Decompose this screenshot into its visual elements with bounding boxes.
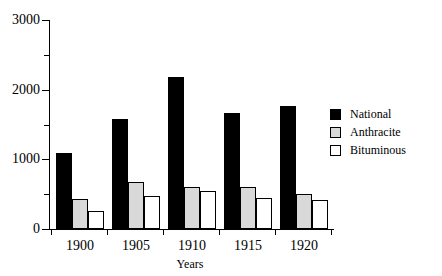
legend-swatch-anthracite [330,127,341,138]
y-axis-tick-minor [44,125,49,126]
x-axis-tick [51,229,52,235]
y-axis-tick-major [42,159,49,160]
bar-anthracite-1905 [128,182,144,229]
x-axis-tick-label: 1920 [276,238,332,253]
y-axis-tick-minor [44,194,49,195]
bar-bituminous-1905 [144,196,160,229]
y-axis-tick-label: 1000 [0,152,40,166]
x-axis-tick-label: 1905 [108,238,164,253]
bar-national-1915 [224,113,240,229]
bar-bituminous-1900 [88,211,104,229]
bar-anthracite-1910 [184,187,200,229]
y-axis-tick-label: 2000 [0,83,40,97]
bars-layer [50,20,334,229]
legend-label: Bituminous [350,144,406,157]
legend-item-national: National [330,106,442,122]
legend-swatch-bituminous [330,145,341,156]
x-axis-tick-label: 1910 [164,238,220,253]
y-axis-tick-major [42,20,49,21]
legend-item-anthracite: Anthracite [330,124,442,140]
bar-bituminous-1910 [200,191,216,229]
y-axis-tick-label: 0 [0,222,40,236]
x-axis-tick [219,229,220,235]
x-axis-line [42,229,334,230]
chart-legend: NationalAnthraciteBituminous [330,106,442,160]
bar-bituminous-1920 [312,200,328,229]
legend-item-bituminous: Bituminous [330,142,442,158]
legend-swatch-national [330,109,341,120]
x-axis-title: Years [0,258,380,271]
bar-national-1910 [168,77,184,229]
x-axis-tick [275,229,276,235]
bar-chart: 0100020003000 19001905191019151920 Years… [0,0,442,276]
y-axis-tick-minor [44,55,49,56]
x-axis-tick-label: 1900 [52,238,108,253]
legend-label: National [350,108,391,121]
x-axis-tick-label: 1915 [220,238,276,253]
bar-national-1905 [112,119,128,229]
bar-national-1920 [280,106,296,229]
bar-national-1900 [56,153,72,229]
y-axis-tick-major [42,90,49,91]
bar-anthracite-1915 [240,187,256,229]
bar-bituminous-1915 [256,198,272,229]
y-axis-tick-label: 3000 [0,13,40,27]
x-axis-tick [331,229,332,235]
bar-anthracite-1920 [296,194,312,229]
x-axis-tick [163,229,164,235]
bar-anthracite-1900 [72,199,88,229]
legend-label: Anthracite [350,126,401,139]
x-axis-tick [107,229,108,235]
